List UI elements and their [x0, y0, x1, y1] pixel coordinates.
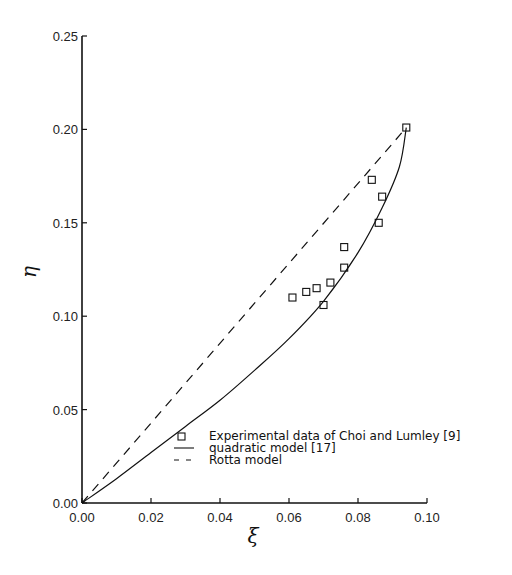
data-point-marker [289, 294, 296, 301]
legend: Experimental data of Choi and Lumley [9]… [174, 429, 460, 467]
data-point-marker [327, 279, 334, 286]
y-axis-label: η [17, 266, 41, 278]
y-tick-label: 0.05 [53, 403, 78, 418]
data-point-marker [303, 288, 310, 295]
legend-label: Rotta model [209, 453, 282, 467]
x-tick-label: 0.00 [69, 510, 94, 525]
data-point-marker [379, 193, 386, 200]
y-tick-label: 0.10 [53, 309, 78, 324]
data-point-marker [368, 176, 375, 183]
y-tick-label: 0.15 [53, 216, 78, 231]
x-tick-label: 0.10 [414, 510, 439, 525]
data-point-marker [341, 244, 348, 251]
legend-square-icon [178, 433, 185, 440]
chart: 0.000.020.040.060.080.100.000.050.100.15… [0, 0, 512, 575]
y-tick-label: 0.00 [53, 496, 78, 511]
y-tick-label: 0.20 [53, 122, 78, 137]
x-tick-label: 0.02 [138, 510, 163, 525]
y-tick-label: 0.25 [53, 29, 78, 44]
data-point-marker [313, 285, 320, 292]
x-tick-label: 0.08 [345, 510, 370, 525]
x-axis-label: ξ [247, 524, 259, 548]
x-tick-label: 0.06 [276, 510, 301, 525]
x-tick-label: 0.04 [207, 510, 232, 525]
